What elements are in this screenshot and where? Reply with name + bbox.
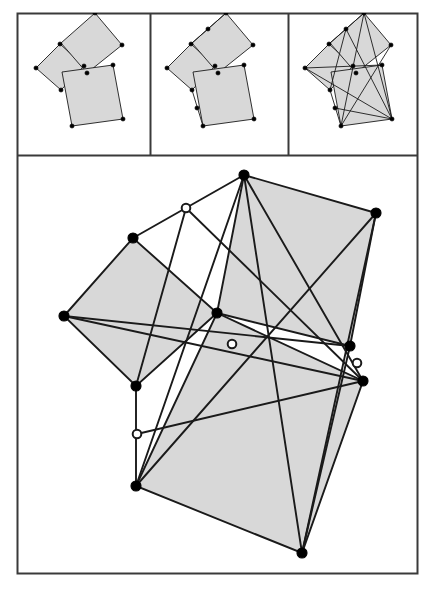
- vertex-vertex-upper-left: [128, 233, 138, 243]
- vertex-point-4: [59, 88, 63, 92]
- vertex-vertex-center: [212, 308, 222, 318]
- shape-square-lower: [62, 65, 123, 126]
- figure-root: [0, 0, 439, 589]
- vertex-point-8: [380, 63, 384, 67]
- vertex-point-9: [121, 117, 125, 121]
- vertex-vertex-mid-upper-connector: [182, 204, 191, 213]
- vertex-point-3: [213, 64, 217, 68]
- vertex-point-6: [120, 43, 124, 47]
- vertex-point-1: [303, 66, 307, 70]
- vertex-vertex-bottom: [297, 548, 307, 558]
- vertex-point-7: [216, 71, 220, 75]
- vertex-point-8: [242, 63, 246, 67]
- vertex-point-11: [344, 27, 348, 31]
- vertex-point-12: [333, 106, 337, 110]
- vertex-point-3: [351, 64, 355, 68]
- vertex-vertex-concurrency: [228, 340, 237, 349]
- vertex-point-10: [201, 124, 205, 128]
- vertex-vertex-mid-lower-connector: [133, 430, 142, 439]
- vertex-point-10: [70, 124, 74, 128]
- vertex-point-3: [82, 64, 86, 68]
- vertex-vertex-lower-left: [131, 381, 141, 391]
- vertex-point-4: [328, 88, 332, 92]
- vertex-point-7: [354, 71, 358, 75]
- vertex-vertex-right-lower: [358, 376, 368, 386]
- vertex-vertex-bottom-left: [131, 481, 141, 491]
- vertex-point-4: [190, 88, 194, 92]
- vertex-point-10: [339, 124, 343, 128]
- vertex-point-9: [252, 117, 256, 121]
- vertex-vertex-left: [59, 311, 69, 321]
- construction-figure: [0, 0, 439, 589]
- shape-square-lower: [193, 65, 254, 126]
- vertex-point-2: [327, 42, 331, 46]
- vertex-point-1: [34, 66, 38, 70]
- vertex-vertex-mid-right: [353, 359, 362, 368]
- vertex-point-12: [195, 106, 199, 110]
- vertex-vertex-right-mid: [345, 341, 355, 351]
- vertex-point-9: [390, 117, 394, 121]
- vertex-vertex-top-right: [371, 208, 381, 218]
- vertex-point-1: [165, 66, 169, 70]
- vertex-point-6: [389, 43, 393, 47]
- vertex-point-11: [206, 27, 210, 31]
- vertex-vertex-apex: [239, 170, 249, 180]
- vertex-point-2: [58, 42, 62, 46]
- vertex-point-8: [111, 63, 115, 67]
- vertex-point-6: [251, 43, 255, 47]
- vertex-point-7: [85, 71, 89, 75]
- vertex-point-2: [189, 42, 193, 46]
